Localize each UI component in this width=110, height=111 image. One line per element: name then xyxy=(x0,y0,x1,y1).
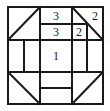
label-center: 1 xyxy=(53,50,59,62)
label-top-right: 2 xyxy=(92,10,98,22)
label-top-center: 3 xyxy=(53,10,59,22)
label-second-row-right: 2 xyxy=(76,26,82,38)
figure-container: 32321 xyxy=(0,0,110,111)
label-second-row-center: 3 xyxy=(53,26,59,38)
